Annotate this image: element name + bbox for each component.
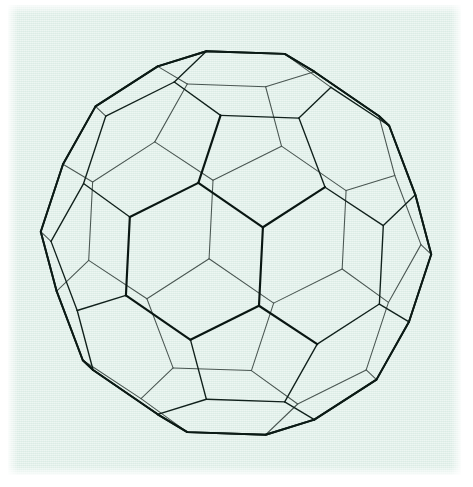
- polyhedron-edge: [251, 371, 297, 404]
- figure-page: [0, 0, 473, 487]
- polyhedron-edge: [209, 259, 274, 303]
- polyhedron-edge: [89, 260, 147, 298]
- polyhedron-edge: [147, 259, 209, 299]
- polyhedron-edge: [213, 146, 282, 180]
- polyhedron-edge: [63, 164, 93, 182]
- polyhedron-edge: [342, 191, 346, 269]
- polyhedron-edge: [51, 184, 84, 242]
- polyhedron-edge: [274, 269, 343, 303]
- polyhedron-edge: [84, 184, 130, 217]
- polyhedron-edge: [299, 87, 331, 118]
- polyhedron-edge: [299, 118, 325, 187]
- polyhedron-edge: [388, 245, 421, 303]
- polyhedron-figure: [8, 5, 461, 475]
- polyhedron-edge: [126, 217, 130, 295]
- polyhedron-edge: [126, 295, 191, 339]
- polyhedron-edge: [221, 115, 299, 118]
- polyhedron-edge: [173, 368, 251, 371]
- polyhedron-edge: [141, 368, 173, 399]
- polyhedron-edge: [89, 182, 93, 260]
- polyhedron-edge: [379, 304, 409, 322]
- truncated-icosahedron-drawing: [8, 5, 461, 475]
- polyhedron-edge: [190, 306, 258, 340]
- polyhedron-edge: [174, 82, 220, 115]
- polyhedron-edge: [155, 142, 213, 180]
- polyhedron-edge: [158, 66, 188, 84]
- polyhedron-edge: [130, 183, 199, 217]
- polyhedron-edge: [346, 175, 395, 190]
- polyhedron-edge: [331, 87, 389, 125]
- polyhedron-edge: [96, 106, 106, 116]
- polyhedron-edge: [383, 195, 415, 226]
- polyhedron-edge: [84, 116, 106, 183]
- polyhedron-edge: [317, 304, 379, 344]
- visible-edges-group: [51, 51, 415, 419]
- polyhedron-edge: [282, 146, 347, 190]
- polyhedron-edge: [266, 72, 315, 87]
- polyhedron-edge: [57, 260, 89, 291]
- polyhedron-edge: [285, 402, 315, 420]
- polyhedron-edge: [285, 344, 318, 402]
- silhouette-outline: [41, 51, 431, 435]
- polyhedron-edge: [366, 302, 388, 369]
- polyhedron-edge: [147, 299, 173, 368]
- polyhedron-edge: [51, 241, 77, 310]
- polyhedron-edge: [325, 187, 383, 225]
- polyhedron-edge: [263, 187, 325, 227]
- polyhedron-edge: [93, 142, 155, 182]
- polyhedron-edge: [187, 84, 265, 87]
- polyhedron-edge: [155, 84, 188, 142]
- polyhedron-edge: [77, 295, 126, 310]
- front-face-edges-group: [126, 115, 325, 344]
- polyhedron-edge: [77, 311, 93, 370]
- polyhedron-edge: [366, 370, 376, 380]
- polyhedron-edge: [198, 183, 263, 227]
- polyhedron-edge: [190, 340, 206, 399]
- polyhedron-edge: [298, 370, 367, 404]
- polyhedron-edge: [259, 306, 317, 344]
- figure-plate: [8, 5, 461, 475]
- polyhedron-edge: [106, 82, 175, 116]
- polyhedron-edge: [158, 399, 207, 414]
- polyhedron-edge: [206, 399, 284, 402]
- polyhedron-edge: [198, 115, 220, 182]
- silhouette-group: [41, 51, 431, 435]
- polyhedron-edge: [379, 226, 383, 304]
